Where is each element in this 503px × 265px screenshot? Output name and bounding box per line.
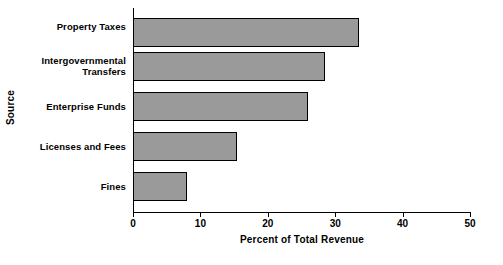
- bar-property-taxes: [133, 18, 359, 47]
- bar-chart: Source Property Taxes Intergovernmental …: [0, 0, 503, 265]
- x-tick-label-50: 50: [450, 218, 490, 229]
- y-tick-label-line: Transfers: [82, 66, 126, 77]
- x-tick-10: [200, 213, 201, 217]
- y-tick-label-line: Intergovernmental: [41, 55, 126, 66]
- y-axis-tick-labels: Property Taxes Intergovernmental Transfe…: [22, 8, 130, 213]
- y-tick-label-line: Fines: [101, 181, 126, 192]
- bar-licenses-and-fees: [133, 132, 237, 161]
- x-tick-label-20: 20: [248, 218, 288, 229]
- x-axis-line: [133, 212, 471, 213]
- x-tick-label-10: 10: [180, 218, 220, 229]
- y-axis-title: Source: [0, 0, 22, 215]
- y-tick-label-property-taxes: Property Taxes: [22, 21, 126, 32]
- bar-intergovernmental-transfers: [133, 52, 325, 81]
- x-tick-label-40: 40: [383, 218, 423, 229]
- x-tick-30: [335, 213, 336, 217]
- bar-enterprise-funds: [133, 92, 308, 121]
- y-tick-label-enterprise-funds: Enterprise Funds: [22, 101, 126, 112]
- bar-fines: [133, 172, 187, 201]
- y-tick-label-intergovernmental-transfers: Intergovernmental Transfers: [22, 55, 126, 77]
- x-tick-40: [403, 213, 404, 217]
- y-tick-label-line: Property Taxes: [57, 21, 126, 32]
- x-tick-label-0: 0: [113, 218, 153, 229]
- y-tick-label-fines: Fines: [22, 181, 126, 192]
- x-tick-50: [470, 213, 471, 217]
- y-tick-label-licenses-and-fees: Licenses and Fees: [22, 141, 126, 152]
- plot-area: 01020304050: [133, 8, 470, 213]
- y-axis-title-text: Source: [6, 90, 17, 125]
- x-tick-20: [268, 213, 269, 217]
- x-tick-0: [133, 213, 134, 217]
- y-tick-label-line: Licenses and Fees: [40, 141, 126, 152]
- x-tick-label-30: 30: [315, 218, 355, 229]
- x-axis-title: Percent of Total Revenue: [133, 234, 471, 245]
- y-tick-label-line: Enterprise Funds: [46, 101, 126, 112]
